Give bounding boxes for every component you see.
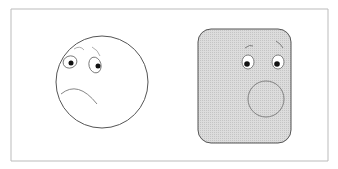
open-mouth: [248, 81, 284, 117]
face-outline: [56, 36, 148, 128]
sad-round-face: [56, 36, 148, 128]
right-eye: [272, 55, 284, 69]
left-eye: [242, 55, 254, 69]
surprised-square-face: [198, 29, 291, 143]
faces-diagram: [0, 0, 338, 169]
